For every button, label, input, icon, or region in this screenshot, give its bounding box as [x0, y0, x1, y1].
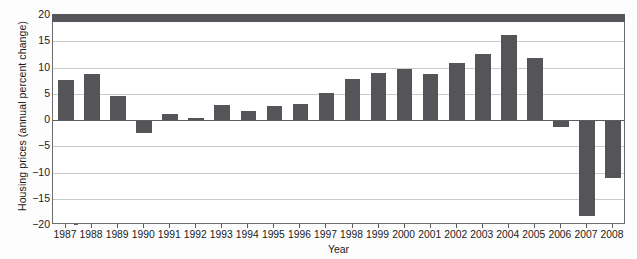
- y-axis-tick-label: −15: [24, 192, 50, 204]
- y-axis-tick-label: 0: [24, 113, 50, 125]
- plot-area: [52, 14, 625, 224]
- x-axis-tick-mark: [404, 224, 405, 228]
- y-axis-tick-label: 15: [24, 34, 50, 46]
- x-axis-tick-label: 1995: [262, 229, 285, 240]
- bar: [371, 73, 387, 120]
- x-axis-tick-label: 1993: [210, 229, 233, 240]
- x-axis-tick-mark: [378, 224, 379, 228]
- x-axis-tick-label: 1988: [80, 229, 103, 240]
- y-axis-ticks: 20151050−5−10−15−20: [24, 14, 50, 224]
- bar: [136, 120, 152, 133]
- x-axis-tick-label: 2003: [470, 229, 493, 240]
- bar: [605, 120, 621, 178]
- zero-line: [53, 120, 624, 121]
- x-axis-tick-mark: [456, 224, 457, 228]
- x-axis-tick-label: 2006: [548, 229, 571, 240]
- x-axis-tick-mark: [195, 224, 196, 228]
- x-axis-tick-mark: [117, 224, 118, 228]
- y-axis-tick-label: −10: [24, 166, 50, 178]
- bar: [58, 80, 74, 120]
- x-axis-tick-label: 1996: [288, 229, 311, 240]
- bar: [241, 111, 257, 120]
- x-axis-tick-label: 1991: [158, 229, 181, 240]
- x-axis-tick-mark: [586, 224, 587, 228]
- bar: [293, 104, 309, 120]
- bar: [423, 74, 439, 120]
- bar: [501, 35, 517, 120]
- bar: [397, 69, 413, 120]
- x-axis-tick-mark: [91, 224, 92, 228]
- bar: [319, 93, 335, 120]
- bar: [84, 74, 100, 120]
- x-axis-tick-mark: [534, 224, 535, 228]
- x-axis-tick-label: 1990: [132, 229, 155, 240]
- x-axis-tick-mark: [612, 224, 613, 228]
- x-axis-tick-label: 2001: [418, 229, 441, 240]
- scan-artifact-band: [52, 14, 625, 22]
- x-axis-tick-label: 2000: [392, 229, 415, 240]
- bar: [527, 58, 543, 120]
- x-axis-tick-mark: [482, 224, 483, 228]
- bar: [449, 63, 465, 120]
- chart-figure: Housing prices (annual percent change) 2…: [0, 0, 637, 259]
- x-axis-tick-mark: [352, 224, 353, 228]
- x-axis-tick-mark: [273, 224, 274, 228]
- bar: [267, 106, 283, 120]
- bar: [475, 54, 491, 120]
- x-axis-tick-label: 2002: [444, 229, 467, 240]
- x-axis-tick-label: 1999: [366, 229, 389, 240]
- x-axis-tick-mark: [65, 224, 66, 228]
- y-axis-tick-label: 5: [24, 87, 50, 99]
- x-axis-tick-label: 2008: [601, 229, 624, 240]
- y-axis-tick-label: −5: [24, 139, 50, 151]
- x-axis-tick-mark: [299, 224, 300, 228]
- bar: [345, 79, 361, 120]
- bar: [110, 96, 126, 120]
- x-axis-tick-label: 1998: [340, 229, 363, 240]
- x-axis-tick-mark: [508, 224, 509, 228]
- x-axis-tick-label: 2004: [496, 229, 519, 240]
- x-axis-tick-mark: [221, 224, 222, 228]
- y-axis-tick-label: 20: [24, 8, 50, 20]
- y-axis-tick-label: 10: [24, 61, 50, 73]
- x-axis-tick-mark: [247, 224, 248, 228]
- x-axis-tick-mark: [143, 224, 144, 228]
- bar: [553, 120, 569, 127]
- x-axis-tick-label: 2007: [574, 229, 597, 240]
- x-axis-tick-label: 1994: [236, 229, 259, 240]
- x-axis-tick-mark: [430, 224, 431, 228]
- bar-series: [53, 15, 624, 223]
- x-axis-tick-labels: 1987198819891990199119921993199419951996…: [52, 229, 625, 243]
- x-axis-tick-mark: [325, 224, 326, 228]
- bar: [214, 105, 230, 120]
- x-axis-tick-label: 1989: [106, 229, 129, 240]
- x-axis-tick-mark: [169, 224, 170, 228]
- x-axis-tick-label: 1992: [184, 229, 207, 240]
- x-axis-tick-label: 1997: [314, 229, 337, 240]
- y-axis-tick-label: −20: [24, 218, 50, 230]
- x-axis-tick-label: 1987: [54, 229, 77, 240]
- bar: [579, 120, 595, 216]
- x-axis-title: Year: [52, 243, 625, 255]
- x-axis-tick-mark: [560, 224, 561, 228]
- x-axis-tick-label: 2005: [522, 229, 545, 240]
